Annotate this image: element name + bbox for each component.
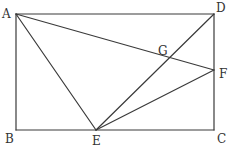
segments-group	[16, 14, 214, 130]
point-label-f: F	[219, 67, 227, 81]
point-label-b: B	[5, 132, 14, 145]
segment-ef	[96, 70, 214, 130]
segment-ae	[16, 14, 96, 130]
geometry-diagram: ABCDEFG	[0, 0, 230, 145]
segment-ed	[96, 14, 214, 130]
segment-af	[16, 14, 214, 70]
point-label-e: E	[92, 134, 101, 145]
point-label-a: A	[1, 7, 11, 21]
point-label-d: D	[216, 1, 226, 15]
labels-group: ABCDEFG	[1, 1, 227, 145]
point-label-g: G	[158, 44, 168, 58]
point-label-c: C	[217, 132, 226, 145]
